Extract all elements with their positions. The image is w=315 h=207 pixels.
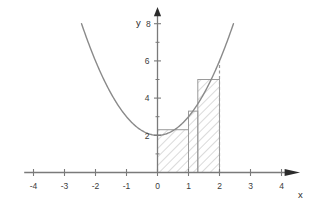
riemann-rectangles [158, 80, 220, 173]
x-tick-label: -3 [61, 181, 69, 191]
parabola-riemann-chart: -4-3-2-101234246 x y 8 [0, 0, 315, 207]
x-tick-label: -4 [30, 181, 38, 191]
x-tick-label: 1 [186, 181, 191, 191]
x-tick-label: 0 [155, 181, 160, 191]
x-tick-label: 3 [248, 181, 253, 191]
y-tick-label: 4 [145, 93, 150, 103]
chart-figure: -4-3-2-101234246 x y 8 [0, 0, 315, 207]
y-axis-label: y [136, 17, 141, 28]
x-tick-label: -1 [123, 181, 131, 191]
y-axis-top-tick-label: 8 [146, 19, 151, 29]
x-tick-label: -2 [92, 181, 100, 191]
riemann-bar [189, 111, 198, 172]
x-tick-label: 4 [279, 181, 284, 191]
riemann-bar [198, 80, 220, 173]
riemann-bar [158, 130, 189, 173]
x-tick-label: 2 [217, 181, 222, 191]
y-axis-arrow-icon [154, 7, 161, 16]
x-axis-label: x [298, 189, 303, 200]
x-axis-arrow-icon [285, 169, 301, 176]
y-tick-label: 2 [145, 131, 150, 141]
y-tick-label: 6 [145, 56, 150, 66]
